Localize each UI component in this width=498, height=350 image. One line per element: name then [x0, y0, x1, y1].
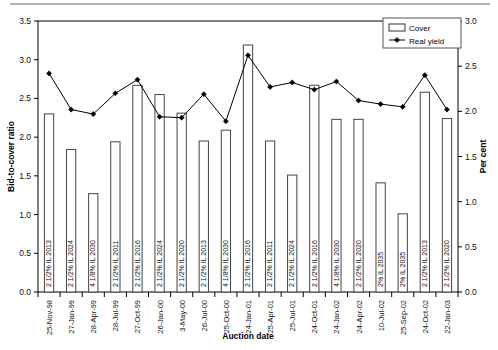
x-axis-category-label: 25-Apr-01	[266, 300, 275, 333]
x-axis-category-label: 26-Jan-00	[156, 300, 165, 334]
legend-label-cover: Cover	[409, 24, 431, 33]
x-axis-category-label: 25-Nov-98	[45, 300, 54, 335]
y-axis-tick-label: 3.5	[19, 16, 31, 26]
y-axis-title: Bid-to-cover ratio	[6, 121, 16, 192]
y2-axis-tick-label: 1.5	[465, 152, 477, 162]
bond-label: 2 1/2% IL 2016	[134, 240, 141, 287]
y2-axis-tick-label: 2.5	[465, 61, 477, 71]
y-axis-tick-label: 0.5	[19, 248, 31, 258]
chart-container: 0.00.51.01.52.02.53.03.50.00.51.01.52.02…	[0, 0, 498, 350]
x-axis-category-label: 24-Apr-02	[355, 300, 364, 333]
x-axis-category-label: 25-Oct-00	[222, 300, 231, 333]
bond-label: 2 1/2% IL 2013	[200, 240, 207, 287]
bond-label: 2 1/2% IL 2020	[178, 240, 185, 287]
bond-label: 2 1/2% IL 2016	[244, 240, 251, 287]
bond-label: 4 1/8% IL 2030	[333, 240, 340, 287]
chart-generated-layer: 0.00.51.01.52.02.53.03.50.00.51.01.52.02…	[6, 16, 488, 341]
x-axis-category-label: 24-Jan-01	[244, 300, 253, 334]
bond-label: 2 1/2% IL 2013	[45, 240, 52, 287]
x-axis-category-label: 3-May-00	[178, 300, 187, 332]
auction-cover-and-real-yield-chart: 0.00.51.01.52.02.53.03.50.00.51.01.52.02…	[0, 0, 498, 350]
y-axis-tick-label: 0.0	[19, 287, 31, 297]
x-axis-category-label: 24-Oct-01	[310, 300, 319, 333]
x-axis-category-label: 22-Jan-03	[443, 300, 452, 334]
bond-label: 4 1/8% IL 2030	[89, 240, 96, 287]
y2-axis-title: Per cent	[478, 140, 488, 174]
bond-label: 2 1/2% IL 2016	[311, 240, 318, 287]
x-axis-category-label: 28-Apr-99	[89, 300, 98, 333]
y-axis-tick-label: 3.0	[19, 55, 31, 65]
real-yield-marker[interactable]	[290, 80, 295, 85]
x-axis-category-label: 25-Sep-02	[399, 300, 408, 335]
bond-label: 2 1/2% IL 2011	[112, 241, 119, 287]
x-axis-category-label: 27-Jan-99	[67, 300, 76, 334]
bond-label: 2 1/2% IL 2024	[156, 240, 163, 287]
bond-label: 2 1/2% IL 2011	[266, 241, 273, 287]
bond-label: 2 1/2% IL 2020	[355, 240, 362, 287]
y-axis-tick-label: 2.5	[19, 93, 31, 103]
y-axis-tick-label: 1.0	[19, 210, 31, 220]
y2-axis-tick-label: 3.0	[465, 16, 477, 26]
legend-label-real-yield: Real yield	[409, 37, 444, 46]
y-axis-tick-label: 1.5	[19, 171, 31, 181]
x-axis-category-label: 10-Jul-02	[377, 300, 386, 331]
x-axis-category-label: 26-Jul-00	[200, 300, 209, 331]
x-axis-category-label: 25-Jul-01	[288, 300, 297, 331]
legend-swatch-cover	[389, 24, 405, 31]
y2-axis-tick-label: 0.5	[465, 242, 477, 252]
bond-label: 2 1/2% IL 2024	[288, 240, 295, 287]
x-axis-category-label: 24-Jan-02	[332, 300, 341, 334]
y2-axis-tick-label: 2.0	[465, 106, 477, 116]
x-axis-category-label: 24-Oct-02	[421, 300, 430, 333]
y2-axis-tick-label: 1.0	[465, 197, 477, 207]
y-axis-tick-label: 2.0	[19, 132, 31, 142]
bond-label: 2 1/2% IL 2020	[443, 240, 450, 287]
bond-label: 4 1/8% IL 2030	[222, 240, 229, 287]
x-axis-category-label: 27-Oct-99	[133, 300, 142, 333]
real-yield-marker[interactable]	[69, 107, 74, 112]
real-yield-marker[interactable]	[444, 107, 449, 112]
bond-label: 2% IL 2035	[377, 252, 384, 287]
x-axis-category-label: 28-Jul-99	[111, 300, 120, 331]
real-yield-marker[interactable]	[135, 77, 140, 82]
real-yield-marker[interactable]	[46, 71, 51, 76]
bond-label: 2 1/2% IL 2024	[67, 240, 74, 287]
bond-label: 2% IL 2035	[399, 252, 406, 287]
bond-label: 2 1/2% IL 2013	[421, 240, 428, 287]
y2-axis-tick-label: 0.0	[465, 287, 477, 297]
real-yield-marker[interactable]	[378, 102, 383, 107]
